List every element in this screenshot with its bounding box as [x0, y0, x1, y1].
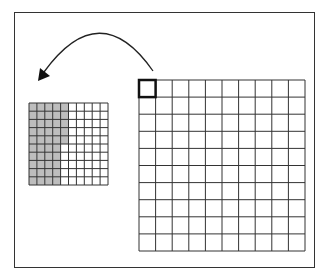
shaded-cell: [61, 119, 69, 127]
shaded-cell: [37, 160, 45, 168]
shaded-cell: [37, 103, 45, 111]
shaded-cell: [53, 144, 61, 152]
shaded-cell: [29, 144, 37, 152]
shaded-cell: [61, 103, 69, 111]
shaded-cell: [37, 177, 45, 185]
large-grid: [139, 80, 305, 251]
small-grid: [29, 103, 108, 185]
shaded-cell: [53, 103, 61, 111]
shaded-cell: [45, 152, 53, 160]
shaded-cell: [45, 119, 53, 127]
shaded-cell: [29, 136, 37, 144]
shaded-cell: [53, 136, 61, 144]
shaded-cell: [37, 144, 45, 152]
shaded-cell: [53, 177, 61, 185]
curved-arrow: [44, 33, 153, 72]
shaded-cell: [37, 169, 45, 177]
shaded-cell: [37, 111, 45, 119]
shaded-cell: [53, 169, 61, 177]
shaded-cell: [29, 128, 37, 136]
shaded-cell: [45, 136, 53, 144]
shaded-cell: [45, 144, 53, 152]
shaded-cell: [45, 169, 53, 177]
shaded-cell: [53, 111, 61, 119]
shaded-cell: [29, 169, 37, 177]
shaded-cell: [37, 128, 45, 136]
arrowhead-icon: [38, 68, 50, 81]
shaded-cell: [53, 119, 61, 127]
shaded-cell: [29, 103, 37, 111]
highlighted-cell: [139, 80, 156, 97]
shaded-cell: [45, 103, 53, 111]
shaded-cell: [45, 128, 53, 136]
shaded-cell: [61, 128, 69, 136]
shaded-cell: [53, 128, 61, 136]
shaded-cell: [29, 152, 37, 160]
shaded-cell: [37, 152, 45, 160]
shaded-cell: [61, 136, 69, 144]
shaded-cell: [53, 160, 61, 168]
shaded-cell: [29, 119, 37, 127]
shaded-cell: [37, 119, 45, 127]
shaded-cell: [53, 152, 61, 160]
shaded-cell: [45, 177, 53, 185]
shaded-cell: [29, 111, 37, 119]
shaded-cell: [45, 111, 53, 119]
shaded-cell: [29, 177, 37, 185]
shaded-cell: [29, 160, 37, 168]
shaded-cell: [61, 111, 69, 119]
diagram-canvas: [0, 0, 326, 278]
shaded-cell: [45, 160, 53, 168]
shaded-cell: [37, 136, 45, 144]
